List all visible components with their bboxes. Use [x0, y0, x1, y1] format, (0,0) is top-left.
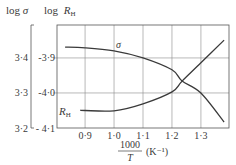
x-tick-label: 0·9 [78, 130, 91, 141]
y-right-axis-label: log RH [44, 4, 76, 18]
svg-text:(K⁻¹): (K⁻¹) [146, 146, 168, 158]
hall-coefficient-curve [80, 40, 224, 111]
sigma-curve-label: σ [116, 39, 122, 50]
y-right-tick-label: - 4·1 [36, 123, 55, 134]
y-left-axis-label: log σ [6, 4, 29, 16]
x-tick-label: 1·2 [165, 130, 178, 141]
y-left-tick-label: 3·2 [15, 123, 28, 134]
y-right-tick-label: -3·9 [38, 52, 55, 63]
y-left-axis-line [31, 25, 34, 128]
y-tick-labels: 3·43·33·2-3·9-4·0- 4·1 [15, 52, 55, 133]
y-right-tick-label: -4·0 [38, 87, 55, 98]
x-tick-label: 1·3 [194, 130, 207, 141]
x-tick-labels: 0·91·01·11·21·3 [78, 130, 207, 141]
svg-text:1000: 1000 [120, 139, 140, 150]
svg-text:T: T [127, 152, 134, 163]
x-tick-label: 1·0 [107, 130, 120, 141]
x-axis-label: 1000 T (K⁻¹) [118, 139, 168, 163]
y-left-tick-label: 3·3 [15, 87, 28, 98]
hall-curve-label: RH [58, 105, 71, 119]
y-left-tick-label: 3·4 [15, 52, 28, 63]
chart: log σ log RH 3·43·33·2-3·9-4·0- 4·1 0·91… [0, 0, 236, 165]
grid [53, 25, 229, 128]
